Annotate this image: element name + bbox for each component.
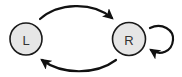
node-l: L [10,23,42,55]
edge-r-to-l [42,60,116,71]
node-r-label: R [124,33,133,48]
node-r: R [113,23,146,56]
node-l-label: L [22,33,29,48]
edge-l-to-r [40,6,112,19]
edge-r-self-loop [150,26,173,53]
state-diagram: L R [0,0,182,77]
